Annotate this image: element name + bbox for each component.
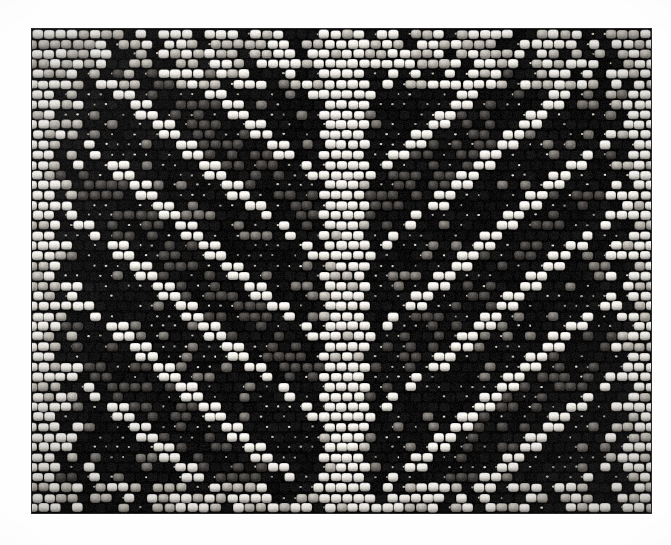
- bead-grid-canvas: [32, 29, 651, 513]
- beadwork-panel: [32, 29, 651, 513]
- photograph: [0, 0, 671, 545]
